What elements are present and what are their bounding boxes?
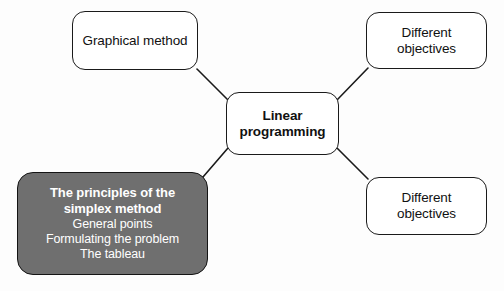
node-different-objectives-bottom-line-2: objectives bbox=[397, 206, 456, 222]
node-simplex-method-sub-line-2: Formulating the problem bbox=[46, 232, 179, 247]
node-graphical-method-line-1: Graphical method bbox=[83, 33, 188, 49]
node-different-objectives-top[interactable]: Different objectives bbox=[366, 12, 487, 69]
connector-center-to-objectives-bottom bbox=[337, 148, 368, 179]
node-simplex-method-sub-line-1: General points bbox=[73, 217, 153, 232]
node-different-objectives-top-line-1: Different bbox=[402, 25, 452, 41]
node-different-objectives-top-line-2: objectives bbox=[397, 41, 456, 57]
node-simplex-method-sub-line-3: The tableau bbox=[80, 247, 145, 262]
connector-center-to-objectives-top bbox=[337, 68, 368, 100]
node-linear-programming-line-1: Linear bbox=[263, 108, 303, 124]
node-linear-programming-line-2: programming bbox=[240, 124, 326, 140]
node-linear-programming[interactable]: Linear programming bbox=[226, 92, 339, 155]
node-different-objectives-bottom[interactable]: Different objectives bbox=[366, 177, 487, 235]
node-graphical-method[interactable]: Graphical method bbox=[72, 11, 198, 70]
node-simplex-method-title-line-2: simplex method bbox=[64, 201, 162, 217]
diagram-canvas: Graphical method Linear programming Diff… bbox=[0, 0, 504, 291]
connector-center-to-graphical bbox=[197, 69, 228, 100]
node-different-objectives-bottom-line-1: Different bbox=[402, 190, 452, 206]
node-simplex-method-title-line-1: The principles of the bbox=[50, 185, 175, 201]
node-simplex-method[interactable]: The principles of the simplex method Gen… bbox=[17, 172, 208, 275]
connector-center-to-simplex bbox=[203, 148, 228, 177]
